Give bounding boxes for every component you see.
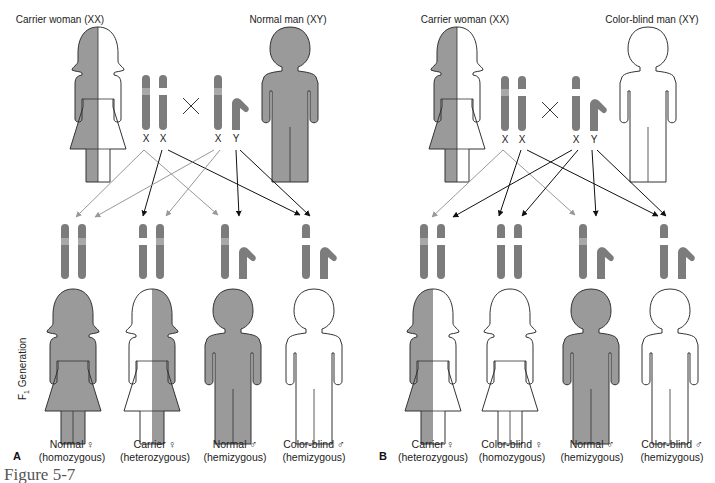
offspring-chromosomes-a xyxy=(61,224,337,279)
svg-text:X: X xyxy=(519,134,526,145)
svg-text:Normal ♀: Normal ♀ xyxy=(50,438,95,450)
female-figure-carrier-b xyxy=(403,289,463,449)
offspring-chromosomes-b xyxy=(420,224,695,279)
male-figure-colorblind-father-b xyxy=(620,27,676,182)
parent-chromosomes-a: X X X Y xyxy=(142,75,249,144)
svg-text:X: X xyxy=(160,133,167,144)
svg-text:Normal ♂: Normal ♂ xyxy=(213,438,258,450)
figure-label: Figure 5-7 xyxy=(4,465,76,483)
svg-text:X: X xyxy=(143,133,150,144)
svg-text:Color-blind ♂: Color-blind ♂ xyxy=(641,438,703,450)
svg-text:X: X xyxy=(502,134,509,145)
f1-generation-label: F1 Generation xyxy=(17,338,30,400)
panel-letter-b: B xyxy=(379,450,387,462)
svg-text:(homozygous): (homozygous) xyxy=(39,451,106,463)
panel-letter-a: A xyxy=(13,450,21,462)
svg-text:X: X xyxy=(215,133,222,144)
male-figure-colorblind-a xyxy=(286,289,342,444)
parent-title-mother-a: Carrier woman (XX) xyxy=(16,14,104,25)
male-figure-normal-father-a xyxy=(262,27,318,182)
svg-text:(hemizygous): (hemizygous) xyxy=(282,451,345,463)
female-figure-normal-a xyxy=(45,289,101,444)
parent-title-father-b: Color-blind man (XY) xyxy=(605,14,698,25)
male-figure-colorblind-b xyxy=(642,289,698,444)
female-figure-carrier-mother-b xyxy=(427,27,487,187)
svg-text:(hemizygous): (hemizygous) xyxy=(203,451,266,463)
female-figure-colorblind-b xyxy=(482,289,538,444)
svg-text:(heterozygous): (heterozygous) xyxy=(398,451,468,463)
female-figure-carrier-a xyxy=(122,289,182,449)
svg-text:Color-blind ♂: Color-blind ♂ xyxy=(283,438,345,450)
svg-text:Y: Y xyxy=(591,134,598,145)
female-figure-carrier-mother-a xyxy=(68,27,128,187)
male-figure-normal-a xyxy=(205,289,261,444)
parent-title-mother-b: Carrier woman (XX) xyxy=(421,14,509,25)
svg-text:Carrier ♀: Carrier ♀ xyxy=(134,438,177,450)
svg-text:Color-blind ♀: Color-blind ♀ xyxy=(481,438,543,450)
parent-title-father-a: Normal man (XY) xyxy=(249,14,326,25)
svg-text:(homozygous): (homozygous) xyxy=(479,451,546,463)
x-linked-inheritance-diagram: Carrier woman (XX) Normal man (XY) X X X… xyxy=(0,0,715,483)
svg-text:Normal ♂: Normal ♂ xyxy=(570,438,615,450)
svg-text:Carrier ♀: Carrier ♀ xyxy=(412,438,455,450)
panel-b: Carrier woman (XX) Color-blind man (XY) … xyxy=(379,14,704,463)
svg-text:Y: Y xyxy=(233,133,240,144)
svg-text:(heterozygous): (heterozygous) xyxy=(120,451,190,463)
parent-chromosomes-b: X X X Y xyxy=(501,76,607,145)
svg-text:(hemizygous): (hemizygous) xyxy=(640,451,703,463)
male-figure-normal-b xyxy=(563,289,619,444)
svg-text:X: X xyxy=(573,134,580,145)
svg-text:(hemizygous): (hemizygous) xyxy=(560,451,623,463)
panel-a: Carrier woman (XX) Normal man (XY) X X X… xyxy=(13,14,346,463)
